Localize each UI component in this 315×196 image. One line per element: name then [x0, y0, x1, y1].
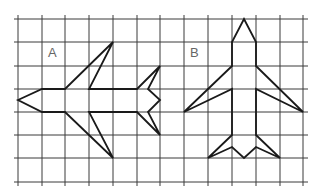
label-b: B — [190, 45, 199, 60]
label-a: A — [48, 45, 57, 60]
grid-lines — [14, 15, 308, 186]
grid-diagram — [0, 0, 315, 196]
